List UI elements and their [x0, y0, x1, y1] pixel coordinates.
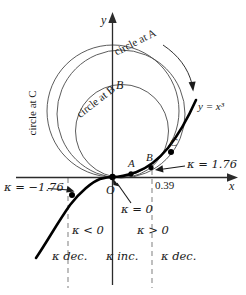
region-right-label: κ dec. — [161, 251, 196, 263]
kappa-max-leader — [160, 166, 185, 170]
curvature-figure: y x O y = x³ circle at A circle at B cir… — [0, 0, 246, 295]
curve-label: y = x³ — [198, 101, 224, 112]
point-origin-dot — [109, 174, 115, 180]
x-tick-label-039: 0.39 — [155, 180, 174, 191]
x-axis-label: x — [229, 180, 234, 192]
point-kappa-min-dot — [69, 192, 75, 198]
region-middle-label: κ inc. — [106, 251, 138, 263]
point-c-dot — [168, 149, 174, 155]
point-b-top-label: B — [116, 79, 123, 91]
point-c-label: C — [170, 137, 177, 148]
kappa-positive-label: κ > 0 — [137, 225, 169, 237]
point-b-dot — [148, 165, 153, 170]
region-left-label: κ dec. — [52, 251, 87, 263]
circle-at-c-label: circle at C — [27, 90, 38, 135]
kappa-max-arrowhead — [155, 165, 164, 172]
origin-label: O — [106, 184, 115, 196]
y-axis-label: y — [101, 14, 106, 26]
kappa-min-arrowhead — [66, 186, 74, 193]
point-a-dot — [128, 171, 133, 176]
circle-a-leader — [163, 45, 192, 84]
kappa-negative-label: κ < 0 — [72, 225, 104, 237]
circle-a-arrowhead — [189, 81, 196, 91]
kappa-max-label: κ = 1.76 — [187, 159, 237, 171]
point-a-label: A — [128, 158, 135, 169]
y-axis-arrowhead — [108, 12, 116, 23]
kappa-min-label: κ = −1.76 — [4, 182, 64, 194]
kappa-zero-label: κ = 0 — [121, 204, 153, 216]
point-b-label: B — [146, 152, 153, 163]
